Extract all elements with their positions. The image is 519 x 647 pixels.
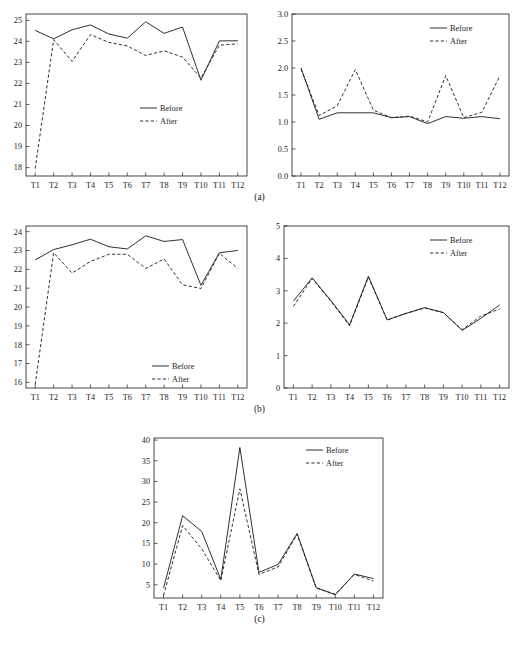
chart-a-left-svg: 1819202122232425T1T2T3T4T5T6T7T8T9T10T11… (0, 4, 255, 196)
x-tick-label: T3 (197, 603, 206, 612)
legend-label-before: Before (326, 446, 349, 455)
x-tick-label: T4 (86, 393, 95, 402)
chart-a-right: 0.00.51.01.52.02.53.0T1T2T3T4T5T6T7T8T9T… (262, 4, 517, 196)
x-tick-label: T7 (273, 603, 282, 612)
figure-container: 1819202122232425T1T2T3T4T5T6T7T8T9T10T11… (0, 0, 519, 647)
y-tick-label: 5 (276, 222, 280, 231)
plot-frame (284, 226, 509, 388)
chart-c-svg: 510152025303540T1T2T3T4T5T6T7T8T9T10T11T… (128, 428, 393, 618)
x-tick-label: T6 (123, 181, 132, 190)
x-tick-label: T10 (329, 603, 342, 612)
series-line-after (293, 277, 499, 329)
x-tick-label: T10 (194, 181, 207, 190)
y-tick-label: 22 (14, 265, 22, 274)
x-tick-label: T8 (423, 181, 432, 190)
x-tick-label: T4 (345, 393, 354, 402)
x-tick-label: T6 (387, 181, 396, 190)
x-tick-label: T3 (326, 393, 335, 402)
series-line-before (35, 236, 238, 286)
x-tick-label: T9 (441, 181, 450, 190)
y-tick-label: 23 (14, 246, 22, 255)
x-tick-label: T11 (474, 393, 487, 402)
y-tick-label: 25 (14, 16, 22, 25)
x-tick-label: T11 (213, 181, 226, 190)
x-tick-label: T3 (67, 181, 76, 190)
legend-label-after: After (326, 459, 344, 468)
series-line-after (164, 489, 374, 596)
x-tick-label: T5 (369, 181, 378, 190)
y-tick-label: 15 (142, 539, 150, 548)
y-tick-label: 2.5 (278, 37, 288, 46)
series-line-after (35, 35, 238, 169)
x-tick-label: T1 (159, 603, 168, 612)
y-tick-label: 0.0 (278, 172, 288, 181)
legend-label-after: After (450, 37, 468, 46)
x-tick-label: T8 (160, 181, 169, 190)
x-tick-label: T2 (308, 393, 317, 402)
x-tick-label: T7 (141, 181, 150, 190)
x-tick-label: T9 (439, 393, 448, 402)
x-tick-label: T10 (456, 393, 469, 402)
x-tick-label: T11 (475, 181, 488, 190)
series-line-after (35, 253, 238, 385)
y-tick-label: 21 (14, 100, 22, 109)
x-tick-label: T7 (401, 393, 410, 402)
y-tick-label: 18 (14, 163, 22, 172)
x-tick-label: T6 (123, 393, 132, 402)
legend-label-after: After (172, 375, 190, 384)
y-tick-label: 4 (276, 254, 280, 263)
y-tick-label: 20 (14, 121, 22, 130)
y-tick-label: 24 (14, 37, 22, 46)
x-tick-label: T12 (367, 603, 380, 612)
y-tick-label: 22 (14, 79, 22, 88)
x-tick-label: T12 (493, 393, 506, 402)
chart-a-left: 1819202122232425T1T2T3T4T5T6T7T8T9T10T11… (0, 4, 255, 196)
y-tick-label: 17 (14, 359, 22, 368)
x-tick-label: T2 (178, 603, 187, 612)
x-tick-label: T5 (104, 393, 113, 402)
x-tick-label: T12 (493, 181, 506, 190)
y-tick-label: 40 (142, 436, 150, 445)
legend-label-before: Before (450, 24, 473, 33)
y-tick-label: 3 (276, 287, 280, 296)
chart-b-left: 161718192021222324T1T2T3T4T5T6T7T8T9T10T… (0, 216, 255, 408)
series-line-after (301, 69, 500, 122)
x-tick-label: T7 (405, 181, 414, 190)
plot-frame (26, 14, 247, 176)
y-tick-label: 16 (14, 378, 22, 387)
x-tick-label: T1 (31, 181, 40, 190)
legend-label-before: Before (172, 362, 195, 371)
y-tick-label: 10 (142, 560, 150, 569)
x-tick-label: T12 (231, 181, 244, 190)
y-tick-label: 5 (146, 581, 150, 590)
y-tick-label: 25 (142, 498, 150, 507)
x-tick-label: T9 (178, 181, 187, 190)
plot-frame (26, 226, 247, 388)
x-tick-label: T11 (213, 393, 226, 402)
x-tick-label: T8 (420, 393, 429, 402)
y-tick-label: 0 (276, 384, 280, 393)
x-tick-label: T9 (178, 393, 187, 402)
x-tick-label: T10 (194, 393, 207, 402)
x-tick-label: T11 (348, 603, 361, 612)
x-tick-label: T1 (296, 181, 305, 190)
x-tick-label: T1 (31, 393, 40, 402)
y-tick-label: 0.5 (278, 145, 288, 154)
y-tick-label: 1 (276, 352, 280, 361)
x-tick-label: T3 (333, 181, 342, 190)
y-tick-label: 20 (142, 519, 150, 528)
x-tick-label: T8 (160, 393, 169, 402)
x-tick-label: T5 (235, 603, 244, 612)
y-tick-label: 2 (276, 319, 280, 328)
chart-c: 510152025303540T1T2T3T4T5T6T7T8T9T10T11T… (128, 428, 393, 618)
y-tick-label: 23 (14, 58, 22, 67)
series-line-before (301, 68, 500, 124)
y-tick-label: 2.0 (278, 64, 288, 73)
y-tick-label: 35 (142, 457, 150, 466)
chart-b-right: 012345T1T2T3T4T5T6T7T8T9T10T11T12BeforeA… (262, 216, 517, 408)
x-tick-label: T4 (86, 181, 95, 190)
x-tick-label: T10 (457, 181, 470, 190)
panel-label-b: (b) (0, 404, 519, 414)
chart-a-right-svg: 0.00.51.01.52.02.53.0T1T2T3T4T5T6T7T8T9T… (262, 4, 517, 196)
x-tick-label: T6 (254, 603, 263, 612)
